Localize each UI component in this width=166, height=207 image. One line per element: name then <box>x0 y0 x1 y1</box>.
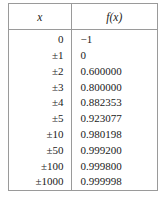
table-row: ±10 0.980198 <box>9 127 157 143</box>
header-row: x f(x) <box>9 4 157 30</box>
cell-fx: 0.923077 <box>71 111 157 127</box>
column-header-x: x <box>9 4 71 30</box>
table-row: ±100 0.999800 <box>9 158 157 174</box>
table-row: ±4 0.882353 <box>9 95 157 111</box>
table-row: ±1 0 <box>9 48 157 64</box>
cell-x: ±10 <box>9 127 71 143</box>
cell-x: 0 <box>9 30 71 48</box>
table-row: 0 −1 <box>9 30 157 48</box>
cell-fx: 0 <box>71 48 157 64</box>
table-row: ±5 0.923077 <box>9 111 157 127</box>
column-header-fx: f(x) <box>71 4 157 30</box>
table-row: ±3 0.800000 <box>9 79 157 95</box>
table-body: 0 −1 ±1 0 ±2 0.600000 ±3 0.800000 ±4 0.8… <box>9 30 157 191</box>
cell-x: ±100 <box>9 158 71 174</box>
table: x f(x) 0 −1 ±1 0 ±2 0.600000 ±3 0.800000 <box>9 4 157 190</box>
cell-fx: 0.999800 <box>71 158 157 174</box>
cell-x: ±50 <box>9 143 71 159</box>
table-row: ±2 0.600000 <box>9 64 157 80</box>
cell-fx: 0.882353 <box>71 95 157 111</box>
cell-x: ±4 <box>9 95 71 111</box>
cell-x: ±5 <box>9 111 71 127</box>
function-value-table: x f(x) 0 −1 ±1 0 ±2 0.600000 ±3 0.800000 <box>8 3 158 191</box>
cell-fx: 0.800000 <box>71 79 157 95</box>
table-row: ±1000 0.999998 <box>9 174 157 190</box>
cell-x: ±1000 <box>9 174 71 190</box>
cell-x: ±2 <box>9 64 71 80</box>
cell-fx: 0.999200 <box>71 143 157 159</box>
cell-fx: 0.999998 <box>71 174 157 190</box>
cell-fx: 0.600000 <box>71 64 157 80</box>
table-header: x f(x) <box>9 4 157 30</box>
cell-x: ±1 <box>9 48 71 64</box>
cell-fx: −1 <box>71 30 157 48</box>
cell-fx: 0.980198 <box>71 127 157 143</box>
cell-x: ±3 <box>9 79 71 95</box>
table-row: ±50 0.999200 <box>9 143 157 159</box>
